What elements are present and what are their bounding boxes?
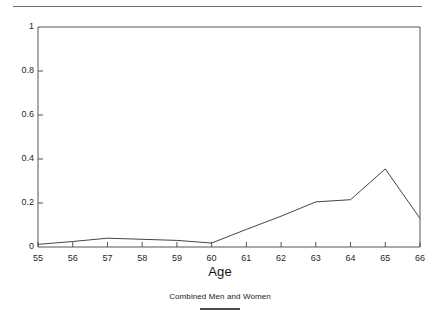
y-axis-ticks xyxy=(38,71,43,203)
x-tick-label: 62 xyxy=(268,253,294,263)
x-tick-label: 55 xyxy=(25,253,51,263)
x-tick-label: 63 xyxy=(303,253,329,263)
x-tick-label: 64 xyxy=(338,253,364,263)
legend-label: Combined Men and Women xyxy=(169,292,271,301)
x-tick-label: 65 xyxy=(372,253,398,263)
y-tick-label: 1 xyxy=(0,22,34,31)
y-tick-label: 0.8 xyxy=(0,66,34,75)
chart-legend: Combined Men and Women xyxy=(0,285,440,310)
x-axis-ticks xyxy=(38,242,420,247)
x-axis-title: Age xyxy=(0,264,440,279)
x-tick-label: 66 xyxy=(407,253,433,263)
data-series-group xyxy=(38,169,420,244)
x-tick-label: 57 xyxy=(94,253,120,263)
x-tick-label: 59 xyxy=(164,253,190,263)
plot-frame xyxy=(38,27,420,247)
y-tick-label: 0.4 xyxy=(0,154,34,163)
data-line-combined xyxy=(38,169,420,244)
y-tick-label: 0 xyxy=(0,242,34,251)
y-tick-label: 0.2 xyxy=(0,198,34,207)
x-tick-label: 56 xyxy=(60,253,86,263)
x-tick-label: 58 xyxy=(129,253,155,263)
y-tick-label: 0.6 xyxy=(0,110,34,119)
x-tick-label: 61 xyxy=(233,253,259,263)
x-tick-label: 60 xyxy=(199,253,225,263)
